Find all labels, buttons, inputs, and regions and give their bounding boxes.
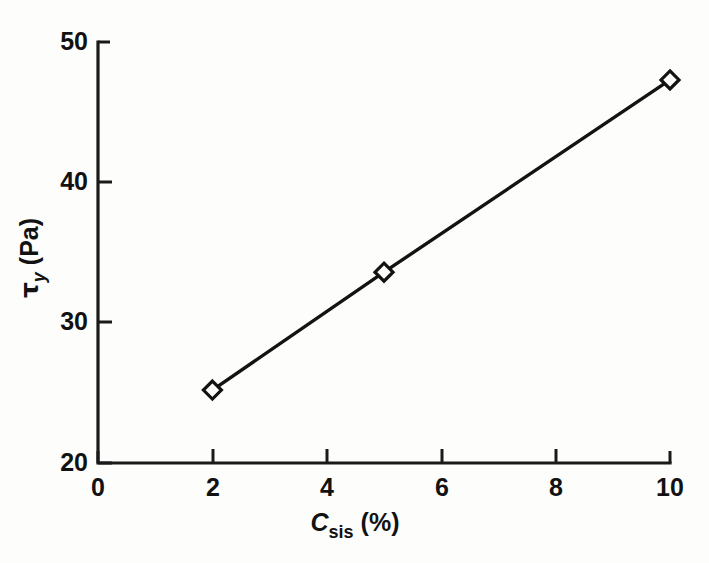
- x-axis-title-units: [354, 508, 361, 536]
- x-tick-label-6: 6: [435, 473, 449, 501]
- x-axis-title-symbol: C: [311, 508, 330, 536]
- line-chart: 50 40 30 20 0 2 4 6 8 10 Csis (%) τy (Pa…: [0, 0, 709, 563]
- y-axis-title-units: (Pa): [15, 218, 43, 265]
- y-tick-label-50: 50: [60, 27, 88, 55]
- y-axis-title-space: [15, 265, 43, 272]
- x-tick-label-2: 2: [206, 473, 220, 501]
- y-tick-label-40: 40: [60, 167, 88, 195]
- figure-background: [0, 0, 709, 563]
- x-tick-label-10: 10: [656, 473, 684, 501]
- chart-figure: 50 40 30 20 0 2 4 6 8 10 Csis (%) τy (Pa…: [0, 0, 709, 563]
- x-tick-label-4: 4: [320, 473, 334, 501]
- x-tick-label-8: 8: [549, 473, 563, 501]
- y-tick-label-20: 20: [60, 448, 88, 476]
- x-axis-title-units-text: (%): [361, 508, 400, 536]
- x-axis-title-subscript: sis: [329, 522, 354, 542]
- y-tick-label-30: 30: [60, 307, 88, 335]
- x-tick-label-0: 0: [91, 473, 105, 501]
- y-axis-title-symbol: τ: [15, 282, 44, 298]
